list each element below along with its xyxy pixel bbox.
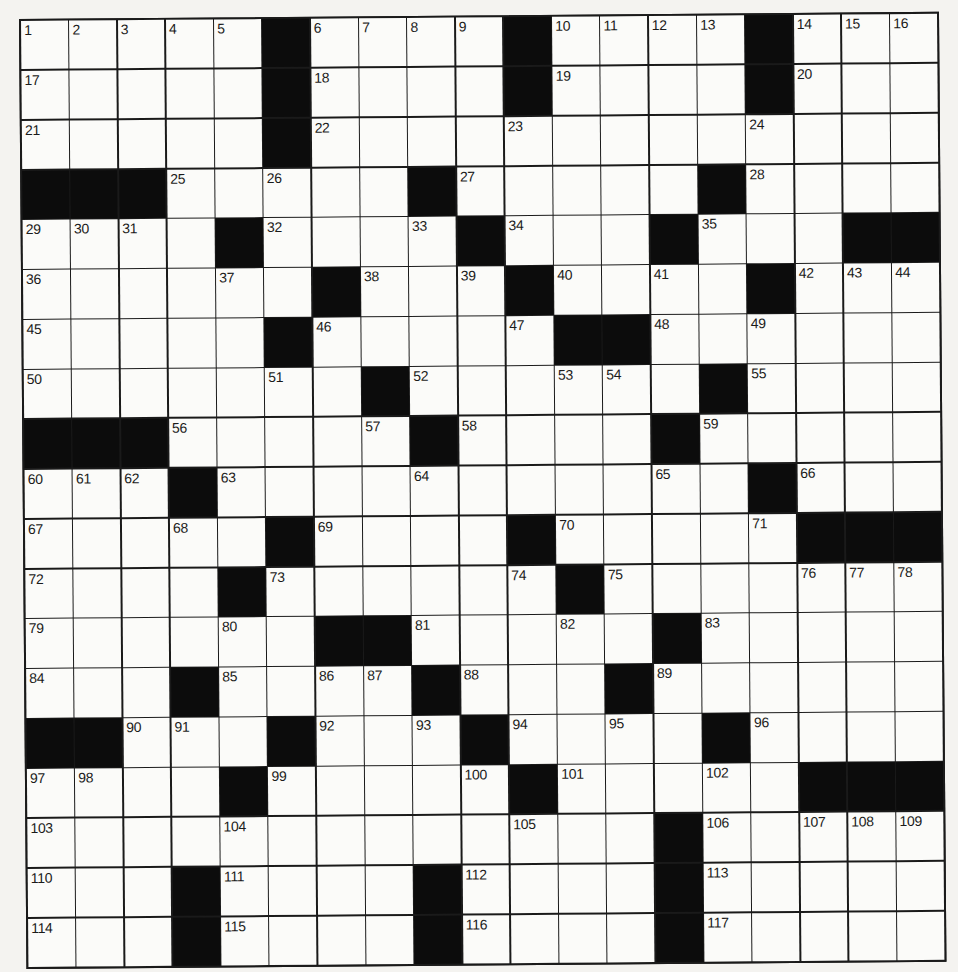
crossword-cell[interactable]: 98 <box>75 768 122 817</box>
crossword-cell[interactable] <box>842 64 889 113</box>
crossword-cell[interactable] <box>847 712 894 761</box>
crossword-cell[interactable] <box>747 214 794 263</box>
crossword-cell[interactable] <box>606 764 653 813</box>
crossword-cell[interactable] <box>649 66 696 115</box>
crossword-cell[interactable] <box>799 663 846 712</box>
crossword-cell[interactable] <box>602 265 649 314</box>
crossword-cell[interactable] <box>266 418 313 467</box>
crossword-cell[interactable] <box>654 714 701 763</box>
crossword-cell[interactable] <box>312 168 359 217</box>
crossword-cell[interactable] <box>462 815 509 864</box>
crossword-cell[interactable]: 68 <box>170 518 217 567</box>
crossword-cell[interactable]: 56 <box>169 418 216 467</box>
crossword-cell[interactable]: 20 <box>794 64 841 113</box>
crossword-cell[interactable]: 50 <box>24 370 71 419</box>
crossword-cell[interactable] <box>460 566 507 615</box>
crossword-cell[interactable] <box>122 568 169 617</box>
crossword-cell[interactable] <box>363 467 410 516</box>
crossword-cell[interactable]: 29 <box>23 220 70 269</box>
crossword-cell[interactable] <box>795 214 842 263</box>
crossword-cell[interactable]: 35 <box>699 215 746 264</box>
crossword-cell[interactable]: 108 <box>848 812 895 861</box>
crossword-cell[interactable]: 61 <box>73 469 120 518</box>
crossword-cell[interactable]: 82 <box>557 615 604 664</box>
crossword-cell[interactable]: 19 <box>553 66 600 115</box>
crossword-cell[interactable] <box>366 866 413 915</box>
crossword-cell[interactable] <box>269 916 316 965</box>
crossword-cell[interactable] <box>699 265 746 314</box>
crossword-cell[interactable]: 34 <box>505 216 552 265</box>
crossword-cell[interactable] <box>168 269 215 318</box>
crossword-cell[interactable] <box>312 218 359 267</box>
crossword-cell[interactable] <box>314 417 361 466</box>
crossword-cell[interactable]: 78 <box>895 562 942 611</box>
crossword-cell[interactable]: 59 <box>700 414 747 463</box>
crossword-cell[interactable]: 1 <box>21 21 68 70</box>
crossword-cell[interactable]: 25 <box>167 169 214 218</box>
crossword-cell[interactable] <box>360 118 407 167</box>
crossword-cell[interactable] <box>220 717 267 766</box>
crossword-cell[interactable] <box>74 569 121 618</box>
crossword-cell[interactable] <box>845 363 892 412</box>
crossword-cell[interactable] <box>118 120 165 169</box>
crossword-cell[interactable]: 42 <box>796 264 843 313</box>
crossword-cell[interactable] <box>601 66 648 115</box>
crossword-cell[interactable] <box>125 917 172 966</box>
crossword-cell[interactable]: 54 <box>603 365 650 414</box>
crossword-cell[interactable] <box>72 369 119 418</box>
crossword-cell[interactable] <box>750 613 797 662</box>
crossword-cell[interactable] <box>408 67 455 116</box>
crossword-cell[interactable]: 52 <box>410 367 457 416</box>
crossword-cell[interactable]: 22 <box>312 118 359 167</box>
crossword-cell[interactable] <box>266 468 313 517</box>
crossword-cell[interactable]: 14 <box>794 15 841 64</box>
crossword-cell[interactable]: 70 <box>556 515 603 564</box>
crossword-cell[interactable] <box>750 563 797 612</box>
crossword-cell[interactable]: 37 <box>216 268 263 317</box>
crossword-cell[interactable] <box>653 514 700 563</box>
crossword-cell[interactable] <box>268 667 315 716</box>
crossword-cell[interactable]: 28 <box>746 165 793 214</box>
crossword-cell[interactable]: 117 <box>704 913 751 962</box>
crossword-cell[interactable] <box>269 817 316 866</box>
crossword-cell[interactable]: 23 <box>505 117 552 166</box>
crossword-cell[interactable]: 90 <box>123 718 170 767</box>
crossword-cell[interactable] <box>460 516 507 565</box>
crossword-cell[interactable]: 57 <box>362 417 409 466</box>
crossword-cell[interactable]: 4 <box>166 19 213 68</box>
crossword-cell[interactable] <box>456 67 503 116</box>
crossword-cell[interactable]: 40 <box>554 266 601 315</box>
crossword-cell[interactable] <box>849 862 896 911</box>
crossword-cell[interactable] <box>460 616 507 665</box>
crossword-cell[interactable]: 62 <box>121 469 168 518</box>
crossword-cell[interactable]: 44 <box>892 263 939 312</box>
crossword-cell[interactable]: 102 <box>703 763 750 812</box>
crossword-cell[interactable] <box>366 916 413 965</box>
crossword-cell[interactable]: 2 <box>69 20 116 69</box>
crossword-cell[interactable]: 3 <box>118 20 165 69</box>
crossword-cell[interactable] <box>604 515 651 564</box>
crossword-cell[interactable]: 75 <box>605 565 652 614</box>
crossword-cell[interactable] <box>413 766 460 815</box>
crossword-cell[interactable] <box>895 662 942 711</box>
crossword-cell[interactable]: 47 <box>506 316 553 365</box>
crossword-cell[interactable] <box>847 662 894 711</box>
crossword-cell[interactable]: 15 <box>842 14 889 63</box>
crossword-cell[interactable] <box>698 115 745 164</box>
crossword-cell[interactable] <box>604 465 651 514</box>
crossword-cell[interactable]: 26 <box>264 168 311 217</box>
crossword-cell[interactable] <box>509 615 556 664</box>
crossword-cell[interactable] <box>217 368 264 417</box>
crossword-cell[interactable] <box>217 418 264 467</box>
crossword-cell[interactable] <box>553 166 600 215</box>
crossword-cell[interactable] <box>800 862 847 911</box>
crossword-cell[interactable]: 17 <box>21 70 68 119</box>
crossword-cell[interactable] <box>218 518 265 567</box>
crossword-cell[interactable] <box>359 68 406 117</box>
crossword-cell[interactable]: 27 <box>457 167 504 216</box>
crossword-cell[interactable] <box>897 911 944 960</box>
crossword-cell[interactable] <box>507 416 554 465</box>
crossword-cell[interactable]: 91 <box>171 718 218 767</box>
crossword-cell[interactable] <box>653 564 700 613</box>
crossword-cell[interactable] <box>891 114 938 163</box>
